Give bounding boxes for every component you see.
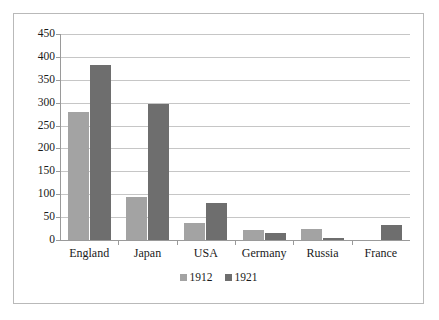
- y-axis-tick: [56, 240, 60, 241]
- y-axis-tick-label: 200: [38, 143, 55, 155]
- bar: [126, 197, 147, 240]
- bar: [301, 229, 322, 240]
- bar: [148, 104, 169, 240]
- y-axis-tick-label: 150: [38, 166, 55, 178]
- x-axis-category-label: Japan: [118, 245, 176, 261]
- x-axis-category-label: England: [60, 245, 118, 261]
- bar: [381, 225, 402, 240]
- y-axis-tick-labels: 050100150200250300350400450: [14, 34, 55, 241]
- y-axis-tick-label: 450: [38, 28, 55, 40]
- bar-group: [293, 34, 351, 240]
- bar: [90, 65, 111, 240]
- bar-group: [177, 34, 235, 240]
- bar: [265, 233, 286, 240]
- legend-item: 1921: [225, 272, 258, 284]
- bar-group: [352, 34, 410, 240]
- y-axis-tick-label: 300: [38, 97, 55, 109]
- y-axis-tick-label: 0: [49, 234, 55, 246]
- bar: [323, 238, 344, 240]
- bar: [68, 112, 89, 240]
- y-axis-tick-label: 100: [38, 188, 55, 200]
- legend-label: 1921: [235, 272, 258, 284]
- plot-area: [60, 34, 410, 241]
- chart-figure: 050100150200250300350400450 EnglandJapan…: [13, 13, 424, 304]
- bar: [184, 223, 205, 240]
- legend-swatch-icon: [180, 274, 187, 281]
- x-axis-category-label: Russia: [293, 245, 351, 261]
- bar-group: [235, 34, 293, 240]
- x-axis-category-labels: EnglandJapanUSAGermanyRussiaFrance: [60, 245, 410, 263]
- x-axis-category-label: France: [352, 245, 410, 261]
- y-axis-tick-label: 350: [38, 74, 55, 86]
- bar: [206, 203, 227, 240]
- y-axis-tick-label: 400: [38, 51, 55, 63]
- x-axis-category-label: Germany: [235, 245, 293, 261]
- legend-item: 1912: [180, 272, 213, 284]
- y-axis-tick-label: 50: [44, 211, 56, 223]
- bar-group: [60, 34, 118, 240]
- x-axis-category-label: USA: [177, 245, 235, 261]
- legend-swatch-icon: [225, 274, 232, 281]
- chart-legend: 19121921: [14, 272, 423, 284]
- legend-label: 1912: [190, 272, 213, 284]
- bar: [243, 230, 264, 240]
- y-axis-tick-label: 250: [38, 120, 55, 132]
- bar-group: [118, 34, 176, 240]
